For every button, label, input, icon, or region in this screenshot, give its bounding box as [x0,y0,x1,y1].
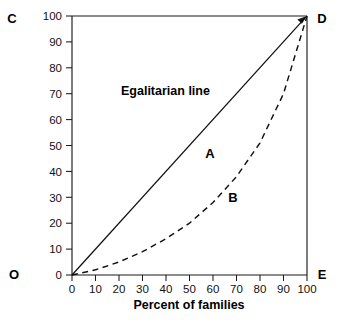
y-tick-label: 10 [49,243,62,255]
x-axis-title: Percent of families [133,298,244,312]
x-tick-label: 90 [277,283,290,295]
y-tick-label: 70 [49,88,62,100]
y-tick-label: 80 [49,62,62,74]
x-tick-label: 50 [183,283,196,295]
y-tick-label: 30 [49,192,62,204]
x-tick-label: 60 [207,283,220,295]
y-tick-label: 50 [49,140,62,152]
x-tick-label: 100 [297,283,316,295]
region-label-a: A [205,146,215,161]
y-tick-label: 90 [49,36,62,48]
egalitarian-line [72,19,304,275]
corner-label-o: O [9,267,19,282]
x-tick-label: 40 [160,283,173,295]
y-axis-ticks [66,16,72,275]
y-tick-label: 0 [56,269,62,281]
x-tick-label: 10 [89,283,102,295]
corner-label-d: D [317,11,326,26]
region-label-b: B [228,190,237,205]
y-tick-label: 100 [43,10,62,22]
x-tick-label: 80 [254,283,267,295]
chart-canvas: 0 10 20 30 40 50 60 70 80 90 100 [0,0,346,328]
x-axis-tick-labels: 0 10 20 30 40 50 60 70 80 90 100 [69,283,317,295]
y-axis-tick-labels: 0 10 20 30 40 50 60 70 80 90 100 [43,10,62,281]
x-tick-label: 20 [113,283,126,295]
lorenz-curve-figure: 0 10 20 30 40 50 60 70 80 90 100 [0,0,346,328]
x-tick-label: 70 [230,283,243,295]
y-tick-label: 40 [49,166,62,178]
x-tick-label: 30 [136,283,149,295]
egalitarian-line-label: Egalitarian line [121,84,210,98]
corner-label-c: C [7,11,17,26]
x-tick-label: 0 [69,283,75,295]
corner-label-e: E [318,267,327,282]
y-tick-label: 20 [49,217,62,229]
x-axis-ticks [72,275,307,281]
y-tick-label: 60 [49,114,62,126]
